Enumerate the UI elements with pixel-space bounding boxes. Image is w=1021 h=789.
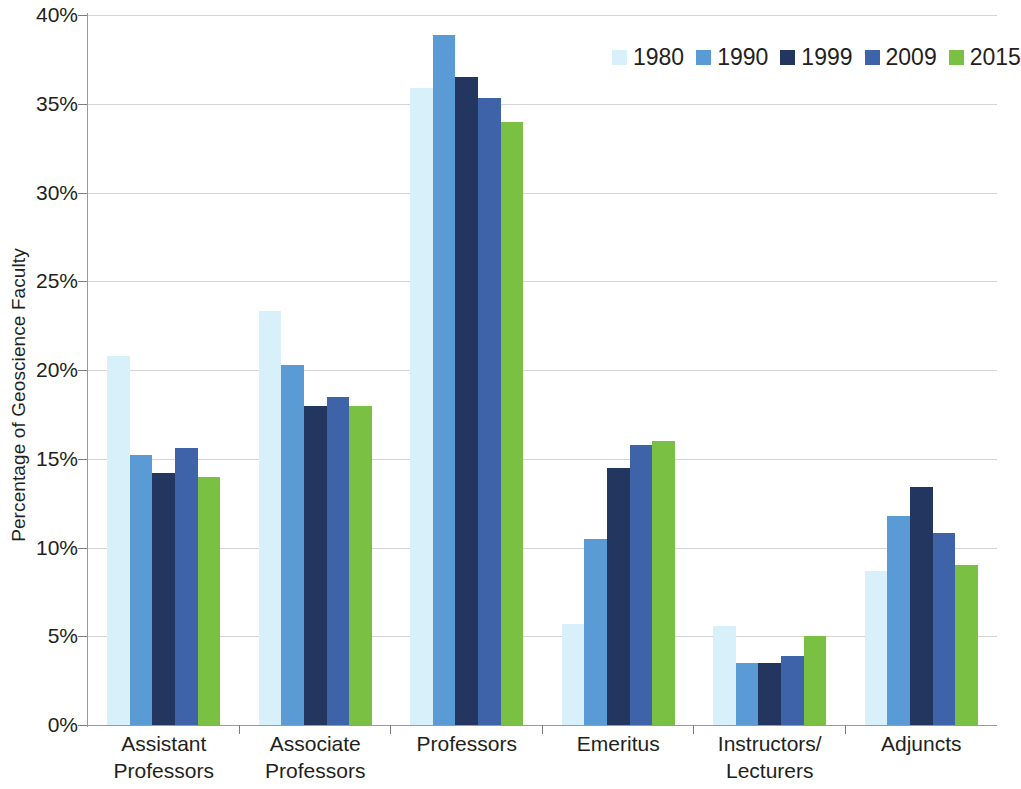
legend-item-2009[interactable]: 2009 [865,44,937,71]
bar-1990[interactable] [281,365,304,725]
y-axis-tick-mark [78,370,87,371]
x-axis-category-label: AssociateProfessors [240,731,392,785]
y-axis-tick-mark [78,725,87,726]
bar-1999[interactable] [152,473,175,725]
bar-group [694,15,846,725]
bar-1999[interactable] [455,77,478,725]
y-axis-tick-label: 0% [18,713,78,737]
bar-group-bars [713,15,826,725]
legend-label: 1999 [801,44,852,71]
legend-label: 2009 [886,44,937,71]
x-axis-category-label-line2: Professors [240,758,392,785]
bar-1999[interactable] [758,663,781,725]
y-axis-tick-mark [78,104,87,105]
y-axis-title: Percentage of Geoscience Faculty [2,0,36,789]
bar-2015[interactable] [198,477,221,726]
bar-2009[interactable] [175,448,198,725]
y-axis-tick-mark [78,636,87,637]
legend-swatch-icon [612,50,627,65]
bar-group [240,15,392,725]
gridline [88,725,997,726]
bar-1990[interactable] [887,516,910,725]
x-axis-category-label: Instructors/Lecturers [694,731,846,785]
bar-1990[interactable] [130,455,153,725]
plot-area: 0%5%10%15%20%25%30%35%40% [88,15,997,725]
bar-1990[interactable] [433,35,456,725]
bar-1980[interactable] [713,626,736,725]
x-axis-category-labels: AssistantProfessorsAssociateProfessorsPr… [88,731,997,785]
bar-group-bars [410,15,523,725]
x-axis-category-label-line1: Assistant [121,732,206,755]
bar-2009[interactable] [933,533,956,725]
legend-swatch-icon [865,50,880,65]
x-axis-category-label-line1: Adjuncts [881,732,962,755]
bar-1999[interactable] [304,406,327,726]
bar-2009[interactable] [781,656,804,725]
bar-1980[interactable] [107,356,130,725]
legend-item-1980[interactable]: 1980 [612,44,684,71]
bar-1999[interactable] [607,468,630,725]
x-axis-category-label-line2: Lecturers [694,758,846,785]
legend-item-2015[interactable]: 2015 [949,44,1021,71]
bar-1990[interactable] [736,663,759,725]
bar-1999[interactable] [910,487,933,725]
x-axis-category-label: Professors [391,731,543,785]
legend-item-1990[interactable]: 1990 [696,44,768,71]
legend-swatch-icon [780,50,795,65]
legend-item-1999[interactable]: 1999 [780,44,852,71]
x-axis-category-label: AssistantProfessors [88,731,240,785]
bar-2015[interactable] [804,636,827,725]
x-axis-category-label-line1: Associate [270,732,361,755]
bar-group [846,15,998,725]
y-axis-tick-label: 30% [18,181,78,205]
bar-1980[interactable] [259,311,282,725]
y-axis-tick-label: 15% [18,447,78,471]
bar-2015[interactable] [501,122,524,726]
bar-group [543,15,695,725]
y-axis-tick-label: 10% [18,536,78,560]
bar-group [88,15,240,725]
y-axis-tick-label: 20% [18,358,78,382]
legend: 19801990199920092015 [612,44,1021,71]
bar-1990[interactable] [584,539,607,725]
x-axis-category-label-line1: Emeritus [577,732,660,755]
bar-group-bars [107,15,220,725]
bar-groups [88,15,997,725]
legend-label: 1990 [717,44,768,71]
y-axis-tick-label: 40% [18,3,78,27]
legend-swatch-icon [696,50,711,65]
bar-2009[interactable] [478,98,501,725]
bar-2015[interactable] [652,441,675,725]
y-axis-tick-mark [78,548,87,549]
y-axis-tick-mark [78,193,87,194]
y-axis-tick-mark [78,281,87,282]
bar-1980[interactable] [410,88,433,725]
y-axis-tick-label: 25% [18,269,78,293]
legend-label: 2015 [970,44,1021,71]
x-axis-category-label: Adjuncts [846,731,998,785]
bar-2015[interactable] [349,406,372,726]
x-axis-category-label-line2: Professors [88,758,240,785]
legend-swatch-icon [949,50,964,65]
y-axis-tick-mark [78,15,87,16]
bar-2009[interactable] [327,397,350,725]
x-axis-category-label-line1: Professors [417,732,517,755]
bar-1980[interactable] [865,571,888,725]
y-axis-tick-mark [78,459,87,460]
y-axis-tick-label: 35% [18,92,78,116]
bar-group-bars [865,15,978,725]
bar-group-bars [562,15,675,725]
bar-group-bars [259,15,372,725]
x-axis-category-label: Emeritus [543,731,695,785]
legend-label: 1980 [633,44,684,71]
y-axis-tick-label: 5% [18,624,78,648]
bar-1980[interactable] [562,624,585,725]
bar-group [391,15,543,725]
bar-2015[interactable] [955,565,978,725]
x-axis-category-label-line1: Instructors/ [718,732,822,755]
bar-2009[interactable] [630,445,653,725]
